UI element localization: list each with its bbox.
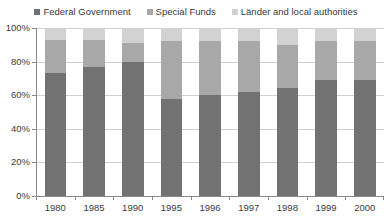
bar-segment[interactable] bbox=[315, 80, 337, 196]
bar-group bbox=[36, 28, 75, 196]
bar-segment[interactable] bbox=[83, 28, 105, 40]
x-tick: 1999 bbox=[307, 196, 346, 221]
x-tick-mark bbox=[75, 196, 76, 200]
x-tick-label: 1985 bbox=[83, 203, 104, 221]
x-tick-mark bbox=[36, 196, 37, 200]
bar-segment[interactable] bbox=[122, 62, 144, 196]
x-tick-mark bbox=[383, 196, 384, 200]
legend-swatch-icon bbox=[34, 9, 40, 15]
bar-segment[interactable] bbox=[354, 28, 376, 41]
bar-group bbox=[307, 28, 346, 196]
x-tick: 1980 bbox=[36, 196, 75, 221]
x-tick: 1995 bbox=[152, 196, 191, 221]
legend-label: Länder and local authorities bbox=[241, 7, 358, 17]
x-tick-mark bbox=[268, 196, 269, 200]
x-axis-labels: 198019851990199519961997199819992000 bbox=[36, 196, 384, 221]
bar-group bbox=[75, 28, 114, 196]
bar-stack[interactable] bbox=[83, 28, 105, 196]
bar-segment[interactable] bbox=[354, 41, 376, 80]
bar-segment[interactable] bbox=[238, 92, 260, 196]
bar-segment[interactable] bbox=[199, 95, 221, 196]
bar-segment[interactable] bbox=[122, 43, 144, 61]
legend-entry[interactable]: Special Funds bbox=[147, 7, 216, 17]
bar-segment[interactable] bbox=[83, 40, 105, 67]
bar-segment[interactable] bbox=[122, 28, 144, 43]
bar-group bbox=[229, 28, 268, 196]
stacked-bar-chart: Federal GovernmentSpecial FundsLänder an… bbox=[0, 0, 392, 221]
x-tick-mark bbox=[113, 196, 114, 200]
plot-area: 100%80%60%40%20%0% bbox=[36, 28, 384, 196]
x-tick-mark bbox=[191, 196, 192, 200]
legend-swatch-icon bbox=[232, 9, 238, 15]
bar-segment[interactable] bbox=[277, 88, 299, 196]
x-tick-mark bbox=[345, 196, 346, 200]
bar-segment[interactable] bbox=[238, 41, 260, 91]
bar-group bbox=[345, 28, 384, 196]
y-tick-label: 80% bbox=[11, 57, 30, 67]
bar-segment[interactable] bbox=[45, 40, 67, 74]
bar-segment[interactable] bbox=[45, 28, 67, 40]
bar-segment[interactable] bbox=[45, 73, 67, 196]
bar-segment[interactable] bbox=[161, 28, 183, 41]
bar-stack[interactable] bbox=[122, 28, 144, 196]
bar-group bbox=[191, 28, 230, 196]
y-tick-label: 0% bbox=[16, 191, 30, 201]
x-tick: 1985 bbox=[75, 196, 114, 221]
bar-segment[interactable] bbox=[277, 45, 299, 89]
bar-segment[interactable] bbox=[161, 41, 183, 98]
x-tick-label: 1980 bbox=[45, 203, 66, 221]
bar-stack[interactable] bbox=[315, 28, 337, 196]
x-tick: 1996 bbox=[191, 196, 230, 221]
legend-entry[interactable]: Federal Government bbox=[34, 7, 130, 17]
y-tick-label: 20% bbox=[11, 157, 30, 167]
bar-stack[interactable] bbox=[199, 28, 221, 196]
bar-stack[interactable] bbox=[161, 28, 183, 196]
x-tick-label: 1995 bbox=[161, 203, 182, 221]
bar-segment[interactable] bbox=[277, 28, 299, 45]
x-tick: 2000 bbox=[345, 196, 384, 221]
x-tick: 1997 bbox=[229, 196, 268, 221]
x-tick-mark bbox=[152, 196, 153, 200]
bar-group bbox=[113, 28, 152, 196]
x-tick-mark bbox=[229, 196, 230, 200]
bar-stack[interactable] bbox=[277, 28, 299, 196]
legend-label: Special Funds bbox=[156, 7, 216, 17]
x-tick: 1990 bbox=[113, 196, 152, 221]
x-tick: 1998 bbox=[268, 196, 307, 221]
x-tick-label: 1997 bbox=[238, 203, 259, 221]
y-tick-label: 100% bbox=[6, 23, 30, 33]
x-tick-label: 1990 bbox=[122, 203, 143, 221]
x-tick-label: 2000 bbox=[354, 203, 375, 221]
legend-entry[interactable]: Länder and local authorities bbox=[232, 7, 358, 17]
bar-segment[interactable] bbox=[199, 41, 221, 95]
legend-label: Federal Government bbox=[43, 7, 130, 17]
bar-segment[interactable] bbox=[315, 41, 337, 80]
bar-segment[interactable] bbox=[315, 28, 337, 41]
bar-stack[interactable] bbox=[238, 28, 260, 196]
x-tick-mark bbox=[307, 196, 308, 200]
bar-segment[interactable] bbox=[238, 28, 260, 41]
bar-segment[interactable] bbox=[354, 80, 376, 196]
chart-legend: Federal GovernmentSpecial FundsLänder an… bbox=[0, 4, 392, 20]
bar-group bbox=[152, 28, 191, 196]
x-tick-label: 1996 bbox=[199, 203, 220, 221]
y-tick-label: 60% bbox=[11, 90, 30, 100]
bar-segment[interactable] bbox=[83, 67, 105, 196]
x-tick-label: 1999 bbox=[315, 203, 336, 221]
legend-swatch-icon bbox=[147, 9, 153, 15]
y-tick-label: 40% bbox=[11, 124, 30, 134]
bar-segment[interactable] bbox=[161, 99, 183, 196]
bar-segment[interactable] bbox=[199, 28, 221, 41]
bar-group bbox=[268, 28, 307, 196]
bars-layer bbox=[36, 28, 384, 196]
bar-stack[interactable] bbox=[354, 28, 376, 196]
bar-stack[interactable] bbox=[45, 28, 67, 196]
x-tick-label: 1998 bbox=[277, 203, 298, 221]
